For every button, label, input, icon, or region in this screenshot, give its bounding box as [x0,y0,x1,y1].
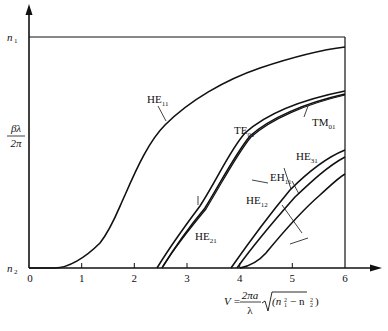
label-he31: HE31 [296,150,318,165]
y-labels: n 1 n 2 βλ 2π [7,31,25,276]
y-axis-denominator: 2π [10,137,22,149]
formula-root: (n [272,295,282,308]
formula-num: 2πa [242,289,259,301]
x-tick-2: 2 [132,272,138,284]
svg-text:): ) [315,295,319,308]
y-bottom-sub: 2 [14,268,18,276]
x-tick-0: 0 [27,272,33,284]
label-he12: HE12 [246,194,268,209]
x-tick-4: 4 [237,272,243,284]
curve-he31 [237,157,345,268]
label-te01: TE01 [234,124,255,139]
y-bottom-label: n [7,262,13,274]
x-axis-arrow-icon [370,265,382,272]
y-top-sub: 1 [14,37,18,45]
x-tick-3: 3 [184,272,190,284]
svg-text:1: 1 [284,302,287,308]
formula-den: λ [247,304,253,316]
x-tick-labels: 0 1 2 3 4 5 6 [27,272,348,284]
label-he21: HE21 [195,230,217,245]
mode-dispersion-chart: 0 1 2 3 4 5 6 n 1 n 2 βλ 2π V = 2πa λ (n… [0,0,388,331]
x-tick-6: 6 [342,272,348,284]
label-eh11: EH11 [270,171,292,186]
label-tm01: TM01 [312,116,336,131]
x-axis-formula: V = 2πa λ (n 2 1 − n 2 2 ) [224,289,319,316]
label-he11: HE11 [147,93,169,108]
formula-lhs: V = [224,295,241,307]
y-top-label: n [7,31,13,43]
x-tick-5: 5 [290,272,296,284]
formula-rest: − n [290,295,305,307]
y-axis-numerator: βλ [10,122,21,134]
svg-text:2: 2 [310,302,313,308]
y-axis-arrow-icon [26,4,33,15]
leader-lines [158,106,308,244]
x-tick-1: 1 [79,272,85,284]
